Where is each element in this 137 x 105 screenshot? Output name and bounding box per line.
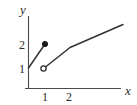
y-tick-label-2: 2 (19, 38, 25, 52)
plot-canvas: y x 2 1 1 2 (0, 0, 137, 105)
function-branch-1 (29, 44, 46, 68)
x-tick-label-2: 2 (66, 90, 72, 104)
function-branch-2 (46, 25, 124, 68)
x-tick-label-1: 1 (42, 90, 48, 104)
filled-point-marker (42, 41, 47, 46)
piecewise-function-graph: y x 2 1 1 2 (0, 0, 137, 105)
x-axis-label: x (124, 83, 131, 98)
y-tick-label-1: 1 (19, 62, 25, 76)
y-axis-label: y (18, 2, 26, 17)
open-point-marker (41, 66, 46, 71)
